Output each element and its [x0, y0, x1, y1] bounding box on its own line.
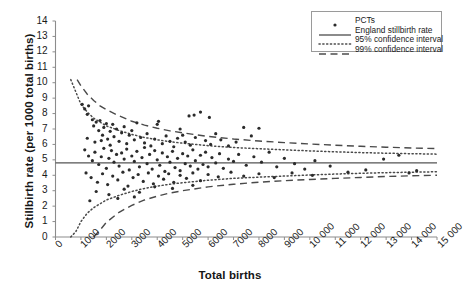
scatter-point [181, 134, 184, 137]
scatter-point [100, 139, 103, 142]
scatter-point [185, 177, 188, 180]
scatter-point [191, 184, 194, 187]
scatter-point [257, 172, 260, 175]
scatter-point [145, 162, 148, 165]
scatter-point [194, 159, 197, 162]
scatter-point [110, 149, 113, 152]
scatter-point [128, 168, 131, 171]
scatter-point [135, 150, 138, 153]
scatter-point [147, 171, 150, 174]
scatter-point [397, 154, 400, 157]
scatter-point [191, 148, 194, 151]
scatter-point [123, 125, 126, 128]
scatter-point [204, 151, 207, 154]
scatter-point [214, 161, 217, 164]
scatter-point [151, 168, 154, 171]
legend-label: 95% confidence interval [355, 34, 443, 44]
scatter-point [148, 153, 151, 156]
scatter-point [209, 143, 212, 146]
scatter-point [176, 137, 179, 140]
scatter-point [364, 168, 367, 171]
scatter-point [112, 161, 115, 164]
scatter-point [111, 174, 114, 177]
scatter-point [105, 167, 108, 170]
scatter-point [125, 142, 128, 145]
scatter-point [227, 157, 230, 160]
scatter-point [196, 168, 199, 171]
scatter-point [115, 127, 118, 130]
scatter-point [98, 119, 101, 122]
scatter-point [140, 156, 143, 159]
scatter-point [191, 171, 194, 174]
scatter-point [123, 157, 126, 160]
scatter-point [219, 138, 222, 141]
scatter-point [157, 120, 160, 123]
scatter-point [91, 118, 94, 121]
scatter-point [204, 139, 207, 142]
scatter-point [130, 154, 133, 157]
scatter-point [179, 174, 182, 177]
scatter-point [121, 171, 124, 174]
scatter-point [87, 104, 90, 107]
scatter-point [84, 171, 87, 174]
scatter-point [120, 131, 123, 134]
scatter-point [111, 123, 114, 126]
scatter-point [161, 151, 164, 154]
scatter-point [234, 141, 237, 144]
dashed-line-icon [318, 45, 352, 55]
scatter-point [153, 185, 156, 188]
scatter-point [245, 164, 248, 167]
scatter-point [83, 107, 86, 110]
scatter-point [208, 116, 211, 119]
scatter-point [106, 137, 109, 140]
scatter-point [133, 195, 136, 198]
scatter-point [143, 146, 146, 149]
scatter-point [156, 123, 159, 126]
scatter-point [126, 184, 129, 187]
scatter-point [407, 171, 410, 174]
scatter-point [222, 167, 225, 170]
scatter-point [242, 126, 245, 129]
scatter-point [283, 157, 286, 160]
scatter-point [135, 121, 138, 124]
scatter-point [102, 147, 105, 150]
scatter-point [143, 141, 146, 144]
scatter-point [189, 144, 192, 147]
scatter-point [303, 168, 306, 171]
scatter-point [237, 153, 240, 156]
confidence-band-upper [77, 80, 437, 149]
scatter-point [167, 172, 170, 175]
scatter-point [162, 178, 165, 181]
scatter-point [176, 157, 179, 160]
scatter-point [137, 173, 140, 176]
scatter-point [102, 126, 105, 129]
scatter-point [107, 157, 110, 160]
scatter-point [95, 190, 98, 193]
scatter-point [194, 136, 197, 139]
scatter-point [109, 144, 112, 147]
scatter-point [106, 183, 109, 186]
scatter-point [179, 169, 182, 172]
scatter-point [172, 181, 175, 184]
scatter-point [199, 179, 202, 182]
legend-label: 99% confidence interval [355, 44, 443, 54]
scatter-point [250, 134, 253, 137]
scatter-point [232, 160, 235, 163]
scatter-point [93, 151, 96, 154]
scatter-point [186, 154, 189, 157]
scatter-point [116, 197, 119, 200]
scatter-point [166, 155, 169, 158]
scatter-point [131, 176, 134, 179]
scatter-point [171, 150, 174, 153]
scatter-point [189, 164, 192, 167]
legend-item: 99% confidence interval [312, 45, 443, 55]
scatter-point [97, 163, 100, 166]
scatter-point [415, 169, 418, 172]
scatter-point [242, 174, 245, 177]
scatter-point [171, 187, 174, 190]
scatter-point [86, 113, 89, 116]
scatter-point [252, 155, 255, 158]
scatter-point [229, 171, 232, 174]
scatter-point [117, 164, 120, 167]
